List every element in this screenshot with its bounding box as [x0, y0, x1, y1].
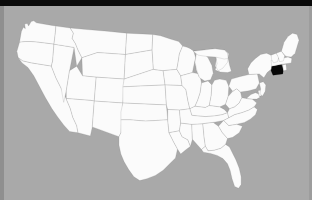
- us-map-svg[interactable]: [0, 6, 312, 200]
- state-NM[interactable]: [92, 101, 123, 137]
- state-CO[interactable]: [94, 77, 124, 103]
- state-FL[interactable]: [202, 144, 242, 188]
- state-OH[interactable]: [209, 79, 229, 107]
- screenshot-canvas: United States map: [0, 0, 312, 200]
- state-MD[interactable]: [246, 93, 260, 99]
- state-NJ[interactable]: [259, 82, 266, 96]
- state-WA[interactable]: [20, 21, 56, 44]
- state-RI[interactable]: [283, 64, 287, 70]
- us-map[interactable]: United States map: [0, 6, 312, 200]
- state-AR[interactable]: [168, 109, 181, 132]
- top-black-bar: [0, 0, 312, 6]
- state-ME[interactable]: [281, 33, 299, 57]
- state-KS[interactable]: [123, 85, 167, 105]
- left-edge-strip: [0, 6, 4, 200]
- state-OK[interactable]: [121, 103, 168, 121]
- right-edge-strip: [309, 6, 312, 200]
- state-WY[interactable]: [82, 53, 126, 80]
